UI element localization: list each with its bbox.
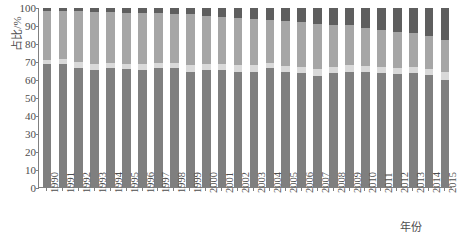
x-axis-tick-mark	[253, 188, 254, 191]
bar-segment-series-1	[106, 68, 115, 187]
bar-segment-series-3	[59, 11, 68, 59]
bar-segment-series-1	[425, 75, 434, 187]
x-axis-tick-label: 2014	[432, 172, 443, 193]
x-axis-tick-mark	[269, 188, 270, 191]
x-axis-tick-label: 2007	[321, 172, 332, 193]
bar-segment-series-3	[122, 13, 131, 64]
bar-segment-series-3	[218, 17, 227, 64]
bar-1995	[122, 8, 131, 187]
x-axis-tick-mark	[285, 188, 286, 191]
y-axis-tick-label: 10	[2, 165, 36, 176]
y-axis-tick-mark	[36, 26, 39, 27]
bar-1997	[154, 8, 163, 187]
bar-segment-series-3	[345, 25, 354, 65]
y-axis-tick-mark	[36, 152, 39, 153]
y-axis-tick-label: 20	[2, 147, 36, 158]
x-axis-tick-mark	[142, 188, 143, 191]
bar-segment-series-1	[90, 70, 99, 187]
y-axis-tick-mark	[36, 8, 39, 9]
bar-segment-series-1	[74, 68, 83, 187]
x-axis-tick-label: 2015	[448, 172, 459, 193]
bar-segment-series-3	[393, 32, 402, 68]
bar-segment-series-3	[361, 28, 370, 66]
bar-segment-series-3	[377, 30, 386, 67]
bar-segment-series-4	[297, 8, 306, 22]
bar-segment-series-4	[313, 8, 322, 24]
y-axis-tick-mark	[36, 170, 39, 171]
bar-segment-series-3	[90, 12, 99, 64]
bar-segment-series-3	[297, 22, 306, 67]
bar-2001	[218, 8, 227, 187]
bar-segment-series-4	[202, 8, 211, 16]
x-axis-tick-mark	[412, 188, 413, 191]
x-axis-tick-label: 1991	[66, 172, 77, 193]
bar-2010	[361, 8, 370, 187]
x-axis-tick-mark	[444, 188, 445, 191]
y-axis-tick-label: 70	[2, 57, 36, 68]
x-axis-tick-label: 2003	[257, 172, 268, 193]
bar-2012	[393, 8, 402, 187]
bar-1992	[74, 8, 83, 187]
x-axis-tick-mark	[364, 188, 365, 191]
bar-segment-series-2	[441, 72, 450, 79]
x-axis-tick-mark	[62, 188, 63, 191]
x-axis-tick-label: 1990	[50, 172, 61, 193]
bar-segment-series-1	[329, 73, 338, 187]
bar-segment-series-4	[250, 8, 259, 19]
bar-segment-series-4	[393, 8, 402, 32]
x-axis-tick-mark	[349, 188, 350, 191]
x-axis-tick-mark	[94, 188, 95, 191]
y-axis-tick-label: 40	[2, 111, 36, 122]
bars-container	[39, 8, 452, 187]
y-axis-tick-label: 60	[2, 75, 36, 86]
x-axis-tick-label: 2011	[384, 172, 395, 193]
bar-1999	[186, 8, 195, 187]
bar-segment-series-4	[329, 8, 338, 25]
x-axis-tick-label: 2013	[416, 172, 427, 193]
x-axis-tick-label: 1995	[130, 172, 141, 193]
bar-1996	[138, 8, 147, 187]
bar-1993	[90, 8, 99, 187]
bar-segment-series-3	[234, 18, 243, 65]
bar-segment-series-2	[313, 69, 322, 76]
x-axis-tick-label: 1999	[193, 172, 204, 193]
bar-segment-series-3	[250, 19, 259, 66]
bar-segment-series-4	[425, 8, 434, 36]
y-axis-tick-label: 100	[2, 3, 36, 14]
x-axis-tick-mark	[126, 188, 127, 191]
bar-segment-series-1	[59, 64, 68, 188]
bar-segment-series-3	[266, 20, 275, 63]
bar-segment-series-1	[234, 72, 243, 187]
x-axis-tick-mark	[428, 188, 429, 191]
plot-area	[38, 8, 452, 188]
bar-segment-series-3	[106, 12, 115, 63]
bar-segment-series-3	[170, 14, 179, 62]
x-axis-tick-label: 1994	[114, 172, 125, 193]
x-axis-tick-label: 2008	[337, 172, 348, 193]
bar-2006	[297, 8, 306, 187]
x-axis-tick-label: 1998	[177, 172, 188, 193]
bar-2013	[409, 8, 418, 187]
x-axis-tick-label: 2001	[225, 172, 236, 193]
x-axis-tick-mark	[237, 188, 238, 191]
bar-1991	[59, 8, 68, 187]
bar-2000	[202, 8, 211, 187]
x-axis-tick-mark	[333, 188, 334, 191]
x-axis-tick-label: 2000	[209, 172, 220, 193]
bar-segment-series-4	[409, 8, 418, 33]
bar-segment-series-3	[441, 40, 450, 72]
x-axis-tick-mark	[173, 188, 174, 191]
bar-segment-series-1	[377, 73, 386, 187]
x-axis-tick-mark	[110, 188, 111, 191]
bar-2008	[329, 8, 338, 187]
bar-1990	[43, 8, 52, 187]
x-axis-tick-label: 1993	[98, 172, 109, 193]
bar-2004	[266, 8, 275, 187]
bar-1998	[170, 8, 179, 187]
bar-segment-series-4	[234, 8, 243, 18]
x-axis-tick-mark	[46, 188, 47, 191]
bar-segment-series-1	[393, 74, 402, 187]
bar-segment-series-2	[186, 65, 195, 72]
x-axis-tick-label: 2005	[289, 172, 300, 193]
y-axis-tick-mark	[36, 62, 39, 63]
